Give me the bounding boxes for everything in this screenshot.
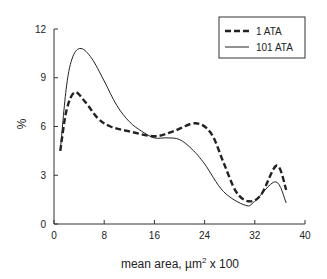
series-group: [60, 48, 286, 205]
legend-label-101-ata: 101 ATA: [256, 42, 293, 53]
y-tick-label: 9: [40, 72, 46, 83]
y-axis-title: %: [15, 118, 29, 129]
x-tick-label: 0: [51, 230, 57, 241]
y-tick-label: 3: [40, 170, 46, 181]
x-tick-label: 32: [249, 230, 261, 241]
x-tick-label: 8: [101, 230, 107, 241]
series-line-1-ata: [60, 92, 286, 201]
x-tick-label: 40: [299, 230, 311, 241]
x-tick-label: 24: [199, 230, 211, 241]
y-tick-label: 12: [35, 24, 47, 35]
x-tick-label: 16: [149, 230, 161, 241]
y-tick-label: 0: [40, 219, 46, 230]
legend-label-1-ata: 1 ATA: [256, 26, 282, 37]
x-axis-title: mean area, µm2 x 100: [121, 256, 239, 271]
legend: 1 ATA 101 ATA: [219, 17, 305, 58]
line-chart: 0816243240036912 1 ATA 101 ATA mean area…: [0, 0, 327, 279]
series-line-101-ata: [60, 48, 286, 205]
y-tick-label: 6: [40, 121, 46, 132]
